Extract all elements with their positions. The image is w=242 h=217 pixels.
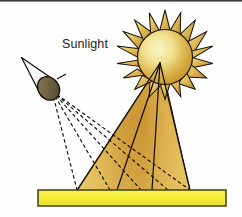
ground-slab — [38, 190, 226, 206]
sunlight-label: Sunlight — [62, 37, 108, 51]
ground-surface — [38, 190, 226, 206]
sun-disc — [138, 30, 193, 85]
diagram-canvas: Sunlight — [0, 0, 242, 217]
top-divider-rule — [0, 0, 242, 2]
sunlight-diagram-figure: Sunlight — [0, 0, 242, 217]
cone-pointer-tick — [57, 74, 66, 79]
